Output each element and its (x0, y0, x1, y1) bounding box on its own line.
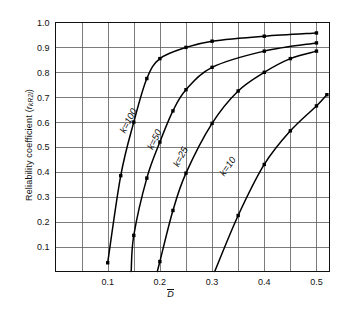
y-tick-label: 0.6 (37, 118, 50, 128)
y-tick-label: 0.9 (37, 43, 50, 53)
data-point-marker (184, 171, 187, 174)
data-point-marker (132, 234, 135, 237)
y-tick-label: 0.1 (37, 242, 50, 252)
data-point-marker (184, 46, 187, 49)
data-point-marker (158, 57, 161, 60)
y-axis-title-var: r (24, 106, 34, 109)
data-point-marker (236, 89, 239, 92)
x-axis-title: D (0, 289, 341, 299)
data-point-marker (210, 122, 213, 125)
data-point-marker (263, 163, 266, 166)
y-tick-label: 0.7 (37, 93, 50, 103)
plot-svg: 0.10.20.30.40.50.60.70.80.91.00.10.20.30… (0, 0, 341, 313)
y-axis-title-subscript: kR2l (27, 92, 34, 106)
x-axis-title-text: D (167, 289, 175, 299)
x-tick-label: 0.4 (258, 277, 271, 287)
data-point-marker (263, 71, 266, 74)
series-curve (215, 95, 327, 272)
reliability-coefficient-chart: 0.10.20.30.40.50.60.70.80.91.00.10.20.30… (0, 0, 341, 313)
data-point-marker (263, 49, 266, 52)
data-point-marker (325, 93, 328, 96)
y-axis-title-close: ) (24, 89, 34, 92)
data-point-marker (145, 176, 148, 179)
data-series-group (106, 31, 329, 271)
data-point-marker (315, 104, 318, 107)
data-point-marker (210, 39, 213, 42)
data-point-marker (158, 260, 161, 263)
y-tick-label: 0.2 (37, 217, 50, 227)
data-point-marker (171, 109, 174, 112)
data-point-marker (315, 41, 318, 44)
data-point-marker (236, 214, 239, 217)
y-axis-title-text: Reliability coefficient ( (24, 109, 34, 201)
data-point-marker (289, 129, 292, 132)
curve-labels: k=100k=50k=25k=10 (117, 106, 238, 178)
data-point-marker (119, 174, 122, 177)
data-point-marker (145, 77, 148, 80)
x-tick-label: 0.3 (206, 277, 219, 287)
y-tick-label: 0.8 (37, 68, 50, 78)
data-point-marker (171, 209, 174, 212)
data-point-marker (263, 34, 266, 37)
data-point-marker (184, 88, 187, 91)
y-tick-label: 0.5 (37, 142, 50, 152)
curve-label: k=100 (117, 106, 139, 135)
y-tick-label: 0.4 (37, 167, 50, 177)
y-tick-label: 1.0 (37, 18, 50, 28)
x-tick-label: 0.1 (101, 277, 114, 287)
data-point-marker (106, 261, 109, 264)
curve-label: k=10 (217, 154, 238, 178)
x-tick-label: 0.5 (310, 277, 323, 287)
data-point-marker (315, 49, 318, 52)
data-point-marker (315, 31, 318, 34)
x-tick-label: 0.2 (154, 277, 167, 287)
y-tick-label: 0.3 (37, 192, 50, 202)
series-curve (131, 43, 316, 272)
data-point-marker (210, 66, 213, 69)
y-axis-title: Reliability coefficient (rkR2l) (24, 60, 34, 230)
data-point-marker (289, 57, 292, 60)
